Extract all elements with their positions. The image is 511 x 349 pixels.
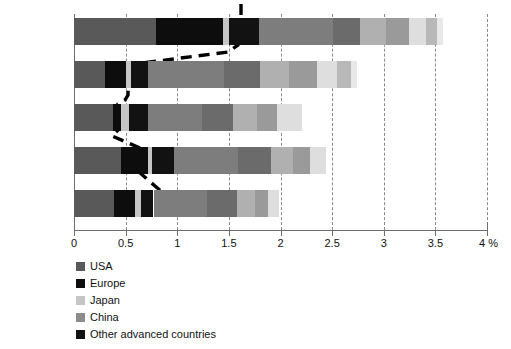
x-tick-label: 3.5 bbox=[428, 237, 443, 249]
gridline-3 bbox=[384, 14, 385, 230]
legend-item[interactable]: China bbox=[76, 309, 216, 326]
bar-segment-europe bbox=[156, 18, 223, 45]
bar-segment-rest-3 bbox=[260, 61, 289, 88]
bar-segment-rest-4 bbox=[289, 61, 317, 88]
x-tick-label: 3 bbox=[381, 237, 387, 249]
bar-segment-europe bbox=[113, 104, 121, 131]
bar-segment-rest-5 bbox=[310, 147, 325, 174]
gridline-3.5 bbox=[435, 14, 436, 230]
bar-segment-usa bbox=[74, 147, 121, 174]
tick-mark bbox=[74, 230, 75, 236]
bar-segment-other-advanced-countries bbox=[229, 18, 259, 45]
bar-segment-usa bbox=[74, 18, 156, 45]
legend-item[interactable]: Other advanced countries bbox=[76, 326, 216, 343]
bar-segment-rest-5 bbox=[409, 18, 427, 45]
x-tick-label: 0.5 bbox=[118, 237, 133, 249]
tick-mark bbox=[384, 230, 385, 236]
tick-mark bbox=[177, 230, 178, 236]
bar-segment-rest-5 bbox=[317, 61, 338, 88]
bar-segment-europe bbox=[114, 190, 135, 217]
bar-row bbox=[74, 104, 382, 131]
bar-segment-rest-4 bbox=[257, 104, 278, 131]
bar-row bbox=[74, 190, 334, 217]
bar-segment-rest-3 bbox=[233, 104, 257, 131]
legend-swatch-icon bbox=[76, 296, 85, 305]
bar-segment-rest-1 bbox=[174, 147, 238, 174]
bar-segment-rest-2 bbox=[202, 104, 233, 131]
bar-segment-rest-2 bbox=[207, 190, 237, 217]
bar-segment-rest-6 bbox=[337, 61, 350, 88]
tick-mark bbox=[435, 230, 436, 236]
x-tick-label: 4 % bbox=[479, 237, 498, 249]
x-tick-label: 2.5 bbox=[324, 237, 339, 249]
bar-row bbox=[74, 18, 443, 45]
legend-label: Other advanced countries bbox=[90, 329, 216, 340]
tick-mark bbox=[281, 230, 282, 236]
legend-label: USA bbox=[90, 261, 113, 272]
bar-segment-rest-1 bbox=[148, 61, 223, 88]
axis-right-cap bbox=[487, 222, 488, 230]
bar-segment-rest-4 bbox=[255, 190, 268, 217]
x-tick-label: 1.5 bbox=[221, 237, 236, 249]
bar-segment-rest-4 bbox=[386, 18, 409, 45]
chart-container: 00.511.522.533.54 % 1996–20052006–201220… bbox=[0, 0, 511, 349]
bar-segment-rest-7 bbox=[351, 61, 357, 88]
gridline-4 bbox=[487, 14, 488, 230]
bar-segment-usa bbox=[74, 104, 113, 131]
legend-label: Europe bbox=[90, 278, 125, 289]
bar-segment-rest-3 bbox=[271, 147, 293, 174]
bar-segment-other-advanced-countries bbox=[152, 147, 174, 174]
x-tick-label: 1 bbox=[174, 237, 180, 249]
bar-segment-japan bbox=[121, 104, 128, 131]
legend-label: China bbox=[90, 312, 119, 323]
tick-mark bbox=[332, 230, 333, 236]
tick-mark bbox=[487, 230, 488, 236]
legend-label: Japan bbox=[90, 295, 120, 306]
legend-item[interactable]: Europe bbox=[76, 275, 216, 292]
bar-segment-europe bbox=[121, 147, 148, 174]
bar-segment-other-advanced-countries bbox=[131, 61, 149, 88]
bar-segment-rest-5 bbox=[268, 190, 279, 217]
bar-row bbox=[74, 147, 362, 174]
bar-segment-usa bbox=[74, 61, 105, 88]
legend-item[interactable]: USA bbox=[76, 258, 216, 275]
bar-segment-rest-2 bbox=[238, 147, 271, 174]
legend-swatch-icon bbox=[76, 279, 85, 288]
bar-segment-rest-6 bbox=[426, 18, 437, 45]
legend-swatch-icon bbox=[76, 262, 85, 271]
bar-segment-rest-1 bbox=[148, 104, 202, 131]
bar-segment-rest-3 bbox=[237, 190, 255, 217]
bar-segment-rest-1 bbox=[154, 190, 208, 217]
x-tick-label: 2 bbox=[277, 237, 283, 249]
bar-segment-other-advanced-countries bbox=[141, 190, 153, 217]
bar-segment-rest-5 bbox=[277, 104, 302, 131]
legend-swatch-icon bbox=[76, 330, 85, 339]
bar-segment-usa bbox=[74, 190, 114, 217]
bar-segment-rest-7 bbox=[437, 18, 442, 45]
bar-segment-rest-3 bbox=[360, 18, 386, 45]
tick-mark bbox=[229, 230, 230, 236]
bar-segment-rest-2 bbox=[333, 18, 360, 45]
bar-segment-europe bbox=[105, 61, 126, 88]
legend-swatch-icon bbox=[76, 313, 85, 322]
bar-segment-rest-4 bbox=[293, 147, 311, 174]
x-tick-label: 0 bbox=[71, 237, 77, 249]
bar-segment-rest-1 bbox=[259, 18, 333, 45]
legend-item[interactable]: Japan bbox=[76, 292, 216, 309]
bar-row bbox=[74, 61, 437, 88]
bar-segment-rest-2 bbox=[224, 61, 260, 88]
bar-segment-other-advanced-countries bbox=[129, 104, 149, 131]
tick-mark bbox=[126, 230, 127, 236]
chart-legend: USAEuropeJapanChinaOther advanced countr… bbox=[76, 258, 216, 343]
